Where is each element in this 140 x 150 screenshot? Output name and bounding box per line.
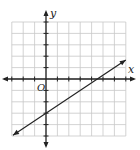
x-axis (2, 77, 136, 82)
x-axis-label: x (128, 63, 135, 76)
plotted-line (13, 60, 126, 135)
origin-label: O (37, 82, 45, 93)
line-arrow-lower-icon (13, 130, 19, 135)
x-axis-right-arrow-icon (130, 77, 136, 82)
line-arrow-upper-icon (119, 60, 125, 65)
y-axis-up-arrow-icon (44, 10, 49, 16)
x-axis-left-arrow-icon (2, 77, 8, 82)
coordinate-plane: y x O (0, 0, 140, 150)
y-axis-down-arrow-icon (44, 142, 49, 148)
y-axis-label: y (49, 7, 57, 20)
